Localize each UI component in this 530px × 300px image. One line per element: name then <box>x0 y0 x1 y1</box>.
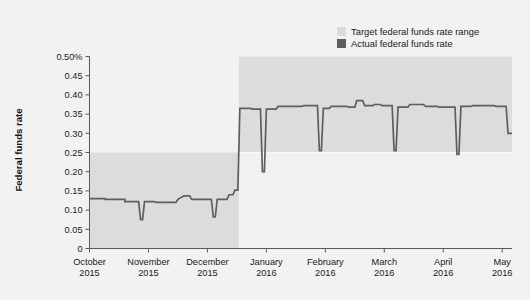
x-tick-label-month-4: February <box>307 257 344 267</box>
y-tick-label-1: 0.45 <box>65 71 83 81</box>
legend-label-actual-rate: Actual federal funds rate <box>351 38 453 49</box>
x-tick-label-month-7: May <box>493 257 511 267</box>
y-tick-label-10: 0 <box>77 244 82 254</box>
chart-figure: 0.50%0.450.400.350.300.250.200.150.100.0… <box>0 0 530 300</box>
x-tick-label-month-1: November <box>127 257 169 267</box>
x-tick-label-month-5: March <box>372 257 398 267</box>
y-tick-label-5: 0.25 <box>65 148 83 158</box>
y-tick-label-8: 0.10 <box>65 205 83 215</box>
y-tick-label-6: 0.20 <box>65 167 83 177</box>
y-axis-title: Federal funds rate <box>13 108 24 191</box>
legend-label-target-range: Target federal funds rate range <box>351 26 479 37</box>
x-tick-label-year-6: 2016 <box>433 268 453 278</box>
x-tick-label-month-0: October <box>73 257 106 267</box>
x-tick-label-year-0: 2015 <box>79 268 99 278</box>
x-tick-label-year-3: 2016 <box>256 268 276 278</box>
x-tick-label-year-7: 2016 <box>492 268 512 278</box>
x-tick-label-year-2: 2015 <box>197 268 217 278</box>
federal-funds-rate-chart: 0.50%0.450.400.350.300.250.200.150.100.0… <box>0 0 530 300</box>
y-tick-label-3: 0.35 <box>65 109 83 119</box>
x-tick-label-month-6: April <box>434 257 452 267</box>
x-tick-label-year-5: 2016 <box>374 268 394 278</box>
y-tick-label-0: 0.50% <box>56 52 82 62</box>
x-tick-label-month-3: January <box>250 257 283 267</box>
legend-swatch-target-range <box>337 27 346 36</box>
y-tick-label-4: 0.30 <box>65 129 83 139</box>
x-tick-label-year-4: 2016 <box>315 268 335 278</box>
x-tick-label-month-2: December <box>186 257 228 267</box>
legend-swatch-actual-rate <box>337 39 346 48</box>
y-tick-label-2: 0.40 <box>65 90 83 100</box>
x-tick-label-year-1: 2015 <box>138 268 158 278</box>
y-tick-label-7: 0.15 <box>65 186 83 196</box>
y-tick-label-9: 0.05 <box>65 225 83 235</box>
